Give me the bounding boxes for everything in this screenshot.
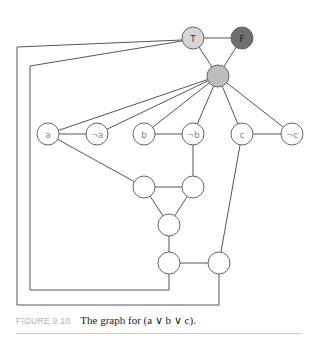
figure-caption-text: The graph for (a ∨ b ∨ c). (80, 314, 196, 326)
node-g4 (158, 252, 180, 274)
edge-B-nc (218, 76, 292, 134)
node-g3 (158, 214, 180, 236)
node-a: a (37, 123, 59, 145)
node-circle (158, 252, 180, 274)
node-label: ¬b (186, 130, 200, 140)
node-nb: ¬b (182, 123, 204, 145)
edge-B-b (144, 76, 218, 134)
node-label: b (141, 130, 147, 140)
figure-label: FIGURE 9.10 (16, 316, 70, 326)
node-g5 (208, 252, 230, 274)
node-c: c (231, 123, 253, 145)
node-label: T (189, 34, 196, 44)
edge-c-g5 (219, 134, 242, 263)
node-circle (158, 214, 180, 236)
node-g1 (133, 176, 155, 198)
node-nc: ¬c (281, 123, 303, 145)
node-F: F (231, 27, 253, 49)
node-circle (182, 176, 204, 198)
node-g2 (182, 176, 204, 198)
node-na: ¬a (86, 123, 108, 145)
node-label: a (45, 130, 51, 140)
caption-divider (16, 333, 302, 334)
node-label: F (239, 34, 244, 44)
figure-caption: FIGURE 9.10 The graph for (a ∨ b ∨ c). (16, 310, 196, 326)
node-T: T (182, 27, 204, 49)
node-B (207, 65, 229, 87)
node-b: b (133, 123, 155, 145)
node-label: ¬c (286, 130, 299, 140)
node-circle (208, 252, 230, 274)
node-circle (133, 176, 155, 198)
node-label: ¬a (90, 130, 103, 140)
node-circle (207, 65, 229, 87)
node-label: c (240, 130, 245, 140)
graph-diagram: TFa¬ab¬bc¬c (0, 0, 320, 310)
